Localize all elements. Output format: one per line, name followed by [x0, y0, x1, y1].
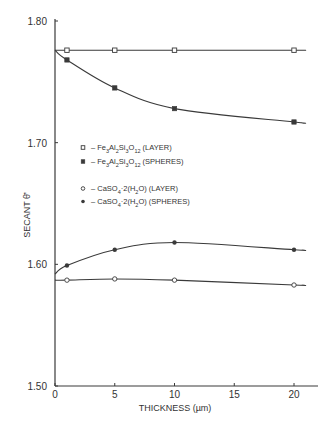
chart: 051015201.501.601.701.80 – Fe3Al2Si3O12 …	[0, 0, 334, 431]
open-circle-marker-icon	[172, 278, 176, 282]
curve-series-3	[55, 242, 306, 274]
filled-square-marker-icon	[65, 58, 69, 62]
open-circle-marker-icon	[65, 278, 69, 282]
filled-circle-marker-icon	[113, 248, 117, 252]
y-tick-label: 1.50	[28, 381, 48, 392]
curve-series-1	[55, 50, 306, 123]
curve-series-2	[55, 279, 306, 286]
axes: 051015201.501.601.701.80	[28, 16, 318, 400]
y-tick-label: 1.70	[28, 138, 48, 149]
filled-square-marker-icon	[113, 86, 117, 90]
open-square-marker-icon	[292, 48, 296, 52]
y-tick-label: 1.80	[28, 16, 48, 27]
open-square-marker-icon	[81, 146, 85, 150]
x-axis-title: THICKNESS (µm)	[139, 403, 212, 413]
filled-square-marker-icon	[81, 160, 85, 164]
legend-item-label: – Fe3Al2Si3O12 (LAYER)	[91, 143, 172, 154]
legend-item-label: – Fe3Al2Si3O12 (SPHERES)	[91, 157, 184, 168]
filled-circle-marker-icon	[81, 200, 85, 204]
y-tick-label: 1.60	[28, 259, 48, 270]
x-tick-label: 20	[288, 389, 300, 400]
open-circle-marker-icon	[292, 283, 296, 287]
legend: – Fe3Al2Si3O12 (LAYER)– Fe3Al2Si3O12 (SP…	[81, 143, 190, 208]
open-square-marker-icon	[113, 48, 117, 52]
filled-circle-marker-icon	[172, 240, 176, 244]
legend-item-label: – CaSO4·2(H2O) (SPHERES)	[91, 197, 190, 208]
y-axis-title: SECANT θ̄'	[22, 192, 32, 238]
x-tick-label: 0	[52, 389, 58, 400]
x-tick-label: 10	[169, 389, 181, 400]
x-tick-label: 5	[112, 389, 118, 400]
filled-circle-marker-icon	[292, 248, 296, 252]
open-circle-marker-icon	[81, 187, 85, 191]
open-square-marker-icon	[65, 48, 69, 52]
legend-item-label: – CaSO4·2(H2O) (LAYER)	[91, 184, 178, 195]
data-curves	[55, 50, 306, 285]
open-square-marker-icon	[172, 48, 176, 52]
x-tick-label: 15	[229, 389, 241, 400]
filled-square-marker-icon	[172, 106, 176, 110]
open-circle-marker-icon	[113, 277, 117, 281]
data-markers	[65, 48, 296, 287]
filled-square-marker-icon	[292, 120, 296, 124]
filled-circle-marker-icon	[65, 263, 69, 267]
